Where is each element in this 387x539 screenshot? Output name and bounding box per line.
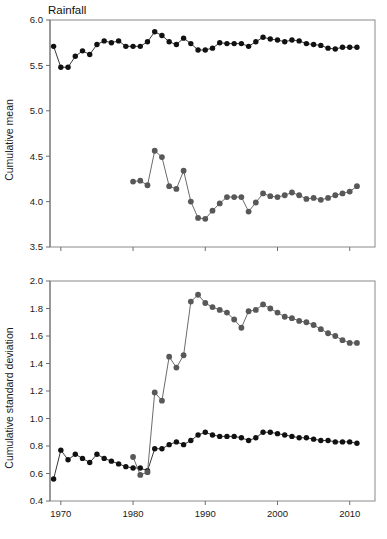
data-point-marker [253,200,259,206]
data-point-marker [311,42,316,47]
data-point-marker [51,476,56,481]
data-point-marker [318,197,324,203]
data-point-marker [253,39,258,44]
data-point-marker [65,65,70,70]
data-point-marker [217,40,222,45]
data-point-marker [195,215,201,221]
data-point-marker [109,458,114,463]
data-point-marker [253,307,259,313]
data-point-marker [138,44,143,49]
y-tick-label: 2.0 [30,275,43,286]
data-point-marker [202,216,208,222]
series-line-gray [133,295,357,475]
data-point-marker [224,310,230,316]
data-point-marker [260,301,266,307]
x-tick-label: 2000 [267,508,288,519]
data-point-marker [304,435,309,440]
data-point-marker [296,435,301,440]
data-point-marker [210,208,216,214]
data-point-marker [101,456,106,461]
data-point-marker [152,389,158,395]
y-tick-label: 1.6 [30,330,43,341]
data-point-marker [347,439,352,444]
data-point-marker [354,340,360,346]
data-point-marker [282,39,287,44]
data-point-marker [340,45,345,50]
data-point-marker [152,29,157,34]
data-point-marker [231,434,236,439]
data-point-marker [289,315,295,321]
data-point-marker [94,452,99,457]
data-point-marker [188,41,193,46]
data-point-marker [275,37,280,42]
data-point-marker [195,292,201,298]
y-tick-label: 6.0 [30,14,43,25]
y-tick-label: 1.2 [30,385,43,396]
data-point-marker [166,442,171,447]
data-point-marker [325,438,330,443]
series-group-bottom [51,292,360,482]
data-point-marker [116,461,121,466]
data-point-marker [282,192,288,198]
data-point-marker [267,306,273,312]
series-group-top [51,29,360,222]
x-tick-label: 1980 [122,508,143,519]
data-point-marker [145,182,151,188]
data-point-marker [340,337,346,343]
data-point-marker [347,189,353,195]
data-point-marker [181,35,186,40]
data-point-marker [246,44,251,49]
data-point-marker [137,178,143,184]
data-point-marker [231,194,237,200]
data-point-marker [231,317,237,323]
data-point-marker [325,45,330,50]
data-point-marker [51,44,56,49]
data-point-marker [268,36,273,41]
data-point-marker [203,430,208,435]
data-point-marker [145,39,150,44]
y-tick-label: 0.4 [30,495,43,506]
y-tick-label: 0.6 [30,468,43,479]
data-point-marker [296,192,302,198]
data-point-marker [130,465,135,470]
data-point-marker [73,54,78,59]
x-tick-label: 1970 [50,508,71,519]
data-point-marker [318,438,323,443]
data-point-marker [166,183,172,189]
data-point-marker [174,42,179,47]
data-point-marker [210,432,215,437]
chart-panel-cumulative-mean: Rainfall Cumulative mean 3.54.04.55.05.5… [0,0,387,268]
data-point-marker [340,439,345,444]
data-point-marker [238,194,244,200]
data-point-marker [188,438,193,443]
data-point-marker [318,43,323,48]
data-point-marker [239,41,244,46]
y-axis-label-bottom: Cumulative standard deviation [3,327,15,468]
data-point-marker [65,457,70,462]
data-point-marker [296,38,301,43]
data-point-marker [73,452,78,457]
data-point-marker [325,330,331,336]
data-point-marker [333,46,338,51]
cumulative-sd-plot: Cumulative standard deviation 0.40.60.81… [0,268,387,539]
data-point-marker [80,456,85,461]
data-point-marker [260,191,266,197]
data-point-marker [238,325,244,331]
data-point-marker [173,186,179,192]
data-point-marker [282,432,287,437]
data-point-marker [260,430,265,435]
y-tick-label: 1.0 [30,413,43,424]
data-point-marker [289,37,294,42]
data-point-marker [304,41,309,46]
data-point-marker [311,322,317,328]
data-point-marker [296,318,302,324]
data-point-marker [282,314,288,320]
data-point-marker [311,195,317,201]
data-point-marker [289,434,294,439]
data-point-marker [58,447,63,452]
data-point-marker [253,435,258,440]
data-point-marker [354,441,359,446]
data-point-marker [275,194,281,200]
data-point-marker [188,199,194,205]
y-tick-label: 3.5 [30,241,43,252]
